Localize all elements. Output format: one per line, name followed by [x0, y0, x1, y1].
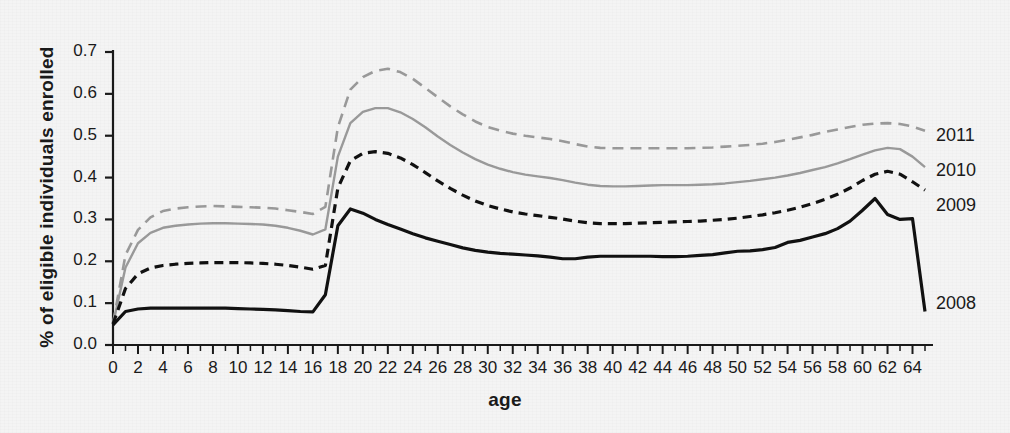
series-label-2009: 2009	[936, 195, 976, 216]
series-label-2008: 2008	[936, 293, 976, 314]
x-axis-title: age	[0, 389, 1010, 411]
data-series-group	[113, 69, 925, 325]
y-axis-title: % of eligible individuals enrolled	[36, 32, 58, 362]
x-axis-tick-label: 64	[898, 358, 928, 378]
y-axis-tick-label: 0.3	[37, 208, 97, 228]
y-axis-tick-label: 0.5	[37, 125, 97, 145]
y-axis-tick-label: 0.2	[37, 250, 97, 270]
y-axis-tick-label: 0.1	[37, 292, 97, 312]
y-axis-tick-label: 0.6	[37, 83, 97, 103]
y-axis-tick-label: 0.0	[37, 334, 97, 354]
y-axis-tick-label: 0.7	[37, 41, 97, 61]
series-label-2011: 2011	[936, 125, 975, 146]
series-line-2011	[113, 69, 925, 323]
y-axis-tick-label: 0.4	[37, 167, 97, 187]
series-line-2009	[113, 152, 925, 324]
chart-figure: % of eligible individuals enrolled age 0…	[0, 0, 1010, 433]
series-line-2010	[113, 108, 925, 324]
series-label-2010: 2010	[936, 160, 976, 181]
